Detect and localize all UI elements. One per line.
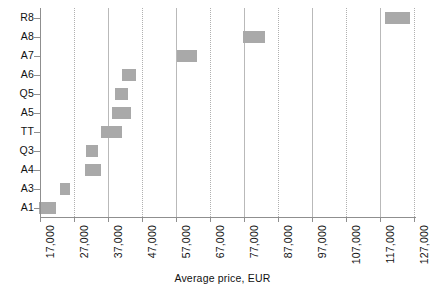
marker-Q5	[115, 88, 128, 100]
x-axis-label-87000: 87,000	[283, 225, 294, 258]
gridline-117000	[380, 8, 381, 217]
marker-Q3	[86, 145, 98, 157]
x-axis-label-127000: 127,000	[419, 225, 430, 264]
x-tick-67000	[210, 217, 211, 222]
y-axis-label-A3: A3	[21, 183, 34, 194]
y-axis-label-A1: A1	[21, 202, 34, 213]
x-tick-37000	[108, 217, 109, 222]
gridline-57000	[176, 8, 177, 217]
x-axis-label-47000: 47,000	[147, 225, 158, 258]
y-axis-label-A5: A5	[21, 107, 34, 118]
x-axis-label-27000: 27,000	[79, 225, 90, 258]
y-axis-label-R8: R8	[20, 12, 34, 23]
y-tick-A5	[34, 113, 40, 114]
x-tick-107000	[346, 217, 347, 222]
gridline-37000	[108, 8, 109, 217]
x-tick-87000	[278, 217, 279, 222]
y-tick-A6	[34, 75, 40, 76]
x-axis-title: Average price, EUR	[0, 272, 445, 284]
x-axis-label-77000: 77,000	[249, 225, 260, 258]
x-tick-77000	[244, 217, 245, 222]
gridline-127000	[414, 8, 415, 217]
y-axis-label-A8: A8	[21, 31, 34, 42]
y-tick-A3	[34, 189, 40, 190]
gridline-97000	[312, 8, 313, 217]
marker-A5	[112, 107, 131, 119]
y-axis-label-Q3: Q3	[20, 145, 34, 156]
x-axis-line	[40, 217, 416, 218]
marker-A6	[122, 69, 136, 81]
marker-A4	[85, 164, 101, 176]
y-tick-R8	[34, 18, 40, 19]
y-axis-label-A7: A7	[21, 50, 34, 61]
y-tick-A8	[34, 37, 40, 38]
gridline-107000	[346, 8, 347, 217]
gridline-47000	[142, 8, 143, 217]
x-axis-label-57000: 57,000	[181, 225, 192, 258]
y-tick-TT	[34, 132, 40, 133]
y-axis-label-A4: A4	[21, 164, 34, 175]
y-tick-A1	[34, 208, 40, 209]
gridline-87000	[278, 8, 279, 217]
marker-A8	[243, 31, 265, 43]
x-tick-47000	[142, 217, 143, 222]
plot-area	[40, 8, 414, 217]
y-tick-A7	[34, 56, 40, 57]
y-axis-line	[40, 8, 41, 217]
gridline-27000	[74, 8, 75, 217]
x-tick-17000	[40, 217, 41, 222]
marker-A1	[39, 202, 56, 214]
x-axis-label-67000: 67,000	[215, 225, 226, 258]
y-tick-A4	[34, 170, 40, 171]
y-tick-Q5	[34, 94, 40, 95]
marker-A7	[177, 50, 197, 62]
marker-A3	[60, 183, 70, 195]
x-tick-117000	[380, 217, 381, 222]
y-axis-label-TT: TT	[21, 126, 34, 137]
x-tick-57000	[176, 217, 177, 222]
y-tick-Q3	[34, 151, 40, 152]
x-tick-27000	[74, 217, 75, 222]
x-axis-label-37000: 37,000	[113, 225, 124, 258]
x-axis-label-117000: 117,000	[385, 225, 396, 264]
x-tick-127000	[414, 217, 415, 222]
x-axis-label-107000: 107,000	[351, 225, 362, 264]
chart-figure: A1A3A4Q3TTA5Q5A6A7A8R8 17,00027,00037,00…	[0, 0, 445, 295]
gridline-67000	[210, 8, 211, 217]
x-axis-label-17000: 17,000	[45, 225, 56, 258]
marker-R8	[385, 12, 410, 24]
marker-TT	[101, 126, 122, 138]
x-axis-label-97000: 97,000	[317, 225, 328, 258]
y-axis-label-A6: A6	[21, 69, 34, 80]
y-axis-label-Q5: Q5	[20, 88, 34, 99]
x-tick-97000	[312, 217, 313, 222]
